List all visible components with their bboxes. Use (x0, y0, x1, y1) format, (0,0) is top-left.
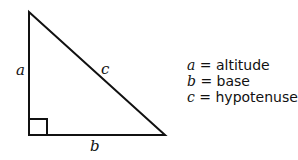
legend-row-base: b = base (187, 73, 298, 89)
hypotenuse-label: c (101, 60, 109, 78)
right-angle-marker (29, 119, 47, 135)
legend: a = altitude b = base c = hypotenuse (187, 57, 298, 105)
legend-equals: = (195, 57, 216, 73)
base-label: b (90, 137, 100, 155)
legend-row-hypotenuse: c = hypotenuse (187, 89, 298, 105)
altitude-label: a (16, 61, 25, 79)
legend-meaning: hypotenuse (215, 89, 297, 105)
legend-var: b (187, 73, 196, 89)
legend-meaning: altitude (216, 57, 270, 73)
triangle-outline (29, 12, 165, 135)
legend-equals: = (196, 73, 217, 89)
legend-var: c (187, 89, 195, 105)
legend-meaning: base (217, 73, 250, 89)
legend-equals: = (195, 89, 216, 105)
legend-row-altitude: a = altitude (187, 57, 298, 73)
